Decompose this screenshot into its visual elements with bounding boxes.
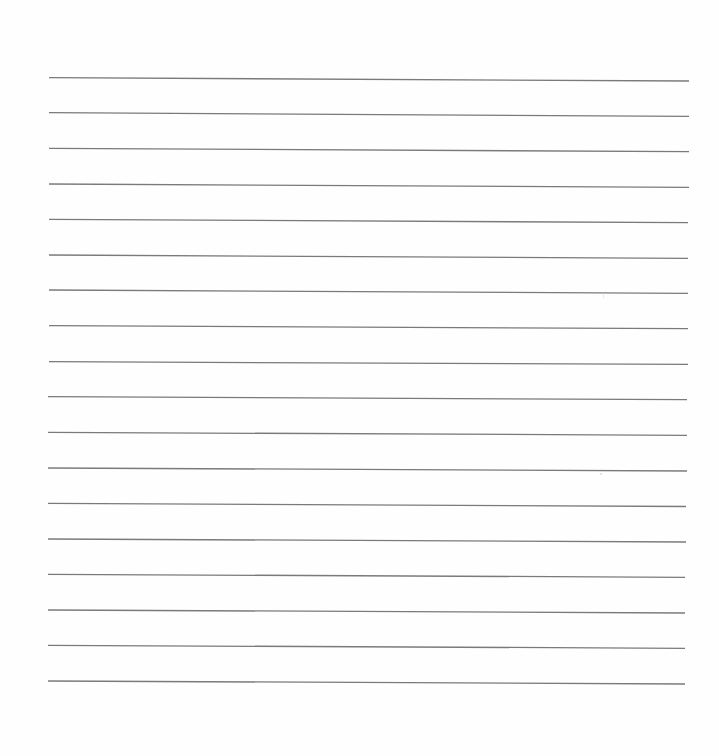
ruled-line-4 (49, 184, 689, 187)
ruled-line-17 (48, 645, 685, 648)
ruled-line-12 (48, 468, 687, 471)
ruled-line-18 (48, 681, 685, 684)
ruled-line-16 (48, 610, 685, 613)
ruled-line-6 (49, 255, 688, 258)
ruled-line-7 (49, 290, 688, 293)
ruled-line-3 (49, 148, 689, 151)
ruled-line-8 (49, 326, 688, 329)
ruled-line-13 (48, 503, 686, 506)
ruled-lines (0, 0, 719, 756)
lined-paper-sheet (0, 0, 719, 756)
ruled-line-15 (48, 574, 685, 577)
ruled-line-5 (49, 219, 688, 222)
ruled-line-2 (49, 113, 689, 117)
ruled-line-14 (48, 539, 686, 542)
ruled-line-10 (48, 397, 687, 400)
ruled-line-9 (49, 362, 688, 365)
ruled-line-11 (48, 432, 687, 435)
scan-speck (600, 473, 602, 475)
ruled-line-1 (49, 78, 689, 81)
scan-speck (603, 293, 604, 298)
